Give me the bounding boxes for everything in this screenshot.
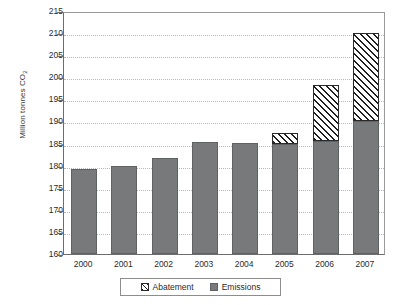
bar-segment-abatement-2006[interactable] — [313, 85, 339, 142]
bar-group-2000[interactable] — [71, 11, 97, 254]
y-tick-label-185: 185 — [0, 139, 72, 149]
x-tick-label-2000: 2000 — [60, 259, 106, 269]
y-tick-mark-160 — [57, 255, 63, 256]
y-tick-label-175: 175 — [0, 183, 72, 193]
y-axis-title-text: Million tonnes CO — [18, 74, 27, 139]
chart-legend: Abatement Emissions — [120, 278, 281, 296]
x-tick-label-2003: 2003 — [181, 259, 227, 269]
y-tick-label-200: 200 — [0, 72, 72, 82]
y-tick-label-160: 160 — [0, 249, 72, 259]
y-tick-label-215: 215 — [0, 6, 72, 16]
legend-label-abatement: Abatement — [153, 282, 194, 292]
x-tick-label-2006: 2006 — [302, 259, 348, 269]
hatched-swatch-icon — [141, 283, 149, 291]
bar-segment-emissions-2001[interactable] — [111, 166, 137, 254]
legend-item-emissions: Emissions — [210, 282, 261, 292]
legend-item-abatement: Abatement — [141, 282, 194, 292]
bar-group-2001[interactable] — [111, 11, 137, 254]
bar-group-2004[interactable] — [232, 11, 258, 254]
bar-segment-emissions-2004[interactable] — [232, 143, 258, 254]
x-tick-label-2001: 2001 — [100, 259, 146, 269]
bar-segment-emissions-2002[interactable] — [152, 158, 178, 254]
plot-area — [63, 12, 385, 255]
y-tick-label-210: 210 — [0, 28, 72, 38]
bar-group-2002[interactable] — [152, 11, 178, 254]
legend-label-emissions: Emissions — [222, 282, 261, 292]
x-tick-label-2007: 2007 — [342, 259, 388, 269]
y-tick-label-180: 180 — [0, 161, 72, 171]
y-axis-title-subscript: 2 — [22, 70, 28, 73]
y-tick-label-165: 165 — [0, 227, 72, 237]
bar-group-2007[interactable] — [353, 11, 379, 254]
bar-group-2006[interactable] — [313, 11, 339, 254]
y-axis-title: Million tonnes CO2 — [18, 35, 27, 175]
bar-group-2003[interactable] — [192, 11, 218, 254]
x-tick-label-2002: 2002 — [141, 259, 187, 269]
bars-container — [64, 13, 384, 254]
bar-group-2005[interactable] — [272, 11, 298, 254]
y-tick-label-170: 170 — [0, 205, 72, 215]
bar-segment-emissions-2000[interactable] — [71, 169, 97, 254]
bar-segment-abatement-2005[interactable] — [272, 133, 298, 145]
bar-segment-emissions-2007[interactable] — [353, 121, 379, 254]
y-tick-label-190: 190 — [0, 116, 72, 126]
bar-segment-abatement-2007[interactable] — [353, 33, 379, 121]
y-tick-label-205: 205 — [0, 50, 72, 60]
bar-segment-emissions-2005[interactable] — [272, 144, 298, 254]
x-tick-label-2004: 2004 — [221, 259, 267, 269]
solid-gray-swatch-icon — [210, 283, 218, 291]
bar-segment-emissions-2006[interactable] — [313, 141, 339, 254]
bar-segment-emissions-2003[interactable] — [192, 142, 218, 254]
x-tick-label-2005: 2005 — [261, 259, 307, 269]
bar-chart: Million tonnes CO2 160165170175180185190… — [0, 0, 400, 305]
y-tick-label-195: 195 — [0, 94, 72, 104]
